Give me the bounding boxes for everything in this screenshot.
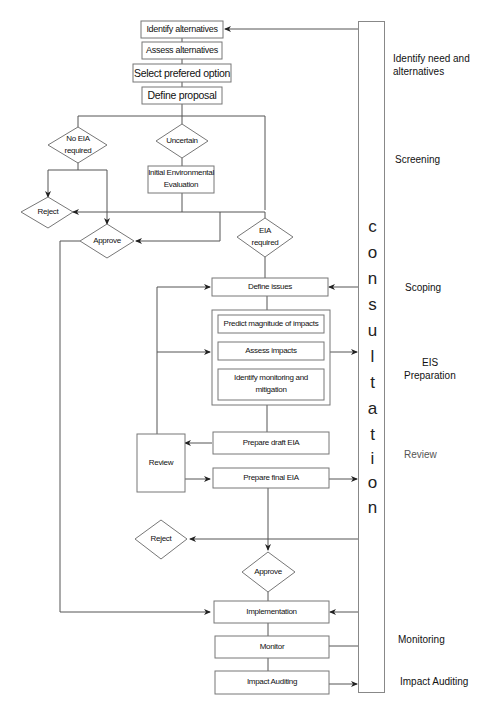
consultation-letter: t: [359, 374, 386, 391]
label-identify-monitoring-2: mitigation: [218, 384, 324, 396]
stage-screening: Screening: [395, 153, 440, 166]
consultation-column: c o n s u l t a t i o n: [358, 21, 385, 693]
label-iee-1: Initial Environmental: [148, 167, 214, 179]
label-identify-monitoring-1: Identify monitoring and: [218, 372, 324, 384]
consultation-letter: u: [359, 322, 386, 339]
label-assess-impacts: Assess impacts: [218, 345, 324, 357]
label-define-proposal: Define proposal: [142, 89, 222, 101]
consultation-letter: o: [359, 474, 386, 491]
label-implementation: Implementation: [214, 606, 329, 618]
stage-impact-auditing: Impact Auditing: [400, 675, 468, 688]
consultation-letter: a: [359, 400, 386, 417]
consultation-letter: i: [359, 450, 386, 467]
stage-review: Review: [404, 448, 437, 461]
label-prepare-final: Prepare final EIA: [213, 472, 329, 484]
label-no-eia-1: No EIA: [53, 133, 103, 145]
label-reject-1: Reject: [23, 206, 73, 218]
consultation-letter: n: [359, 499, 386, 516]
label-reject-2: Reject: [136, 533, 186, 545]
label-identify-alternatives: Identify alternatives: [141, 23, 223, 35]
label-assess-alternatives: Assess alternatives: [142, 44, 222, 56]
label-approve-1: Approve: [82, 235, 132, 247]
consultation-letter: s: [359, 296, 386, 313]
label-review-box: Review: [137, 457, 185, 469]
label-impact-auditing-box: Impact Auditing: [215, 676, 329, 688]
label-iee-2: Evaluation: [148, 179, 214, 191]
label-uncertain: Uncertain: [157, 135, 207, 147]
label-no-eia-2: required: [53, 145, 103, 157]
stage-identify-need-1: Identify need and: [393, 52, 470, 65]
stage-identify-need-2: alternatives: [393, 65, 444, 78]
label-define-issues: Define issues: [212, 281, 328, 293]
consultation-letter: o: [359, 244, 386, 261]
consultation-letter: t: [359, 426, 386, 443]
stage-monitoring: Monitoring: [398, 633, 445, 646]
label-eia-required-1: EIA: [240, 225, 290, 237]
stage-eis-2: Preparation: [404, 369, 456, 382]
consultation-letter: n: [359, 270, 386, 287]
label-approve-2: Approve: [243, 566, 293, 578]
label-predict-magnitude: Predict magnitude of impacts: [218, 318, 324, 330]
consultation-letter: c: [359, 218, 386, 235]
stage-eis-1: EIS: [422, 356, 438, 369]
stage-scoping: Scoping: [405, 281, 441, 294]
label-prepare-draft: Prepare draft EIA: [213, 437, 329, 449]
label-eia-required-2: required: [240, 237, 290, 249]
label-select-option: Select prefered option: [133, 67, 231, 79]
consultation-letter: l: [359, 348, 386, 365]
label-monitor: Monitor: [215, 641, 329, 653]
